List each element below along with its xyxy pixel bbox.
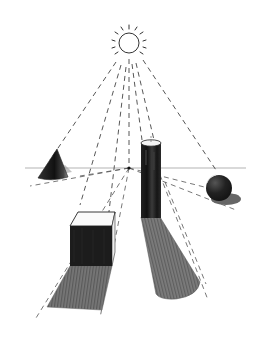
light-rays xyxy=(50,59,216,220)
cube xyxy=(70,212,115,266)
cylinder-shadow xyxy=(141,217,200,299)
cube-shadow xyxy=(47,266,112,310)
sun-icon xyxy=(112,25,146,54)
cylinder xyxy=(141,136,161,218)
vanishing-point xyxy=(127,166,130,169)
pencil-drawing: Pencil sketch: sun casting light on geom… xyxy=(0,0,263,339)
sphere xyxy=(206,175,241,205)
cone xyxy=(38,149,72,180)
